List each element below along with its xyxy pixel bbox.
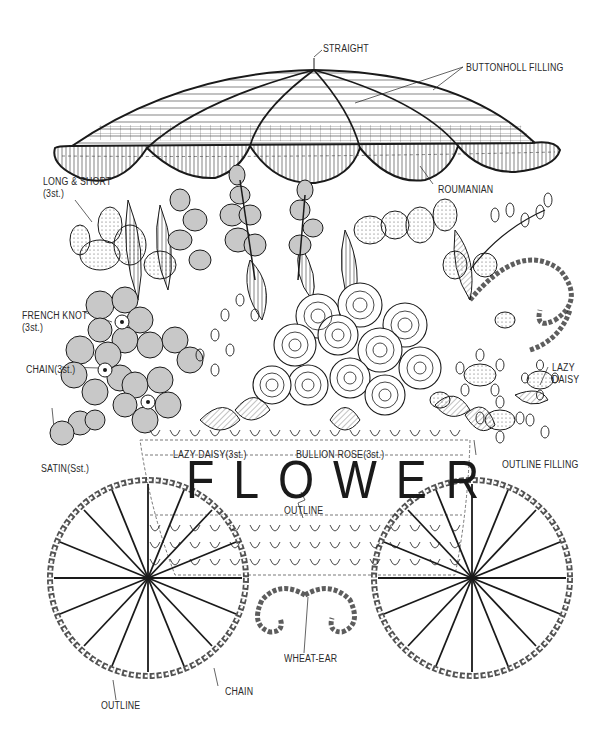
label-lazy-daisy-3st: LAZY DAISY(3st.) (173, 449, 247, 461)
flower-cart-diagram (0, 0, 614, 748)
right-wheel (374, 480, 570, 676)
label-chain-3st: CHAIN(3st.) (26, 364, 75, 376)
label-straight: STRAIGHT (323, 43, 369, 55)
label-french-knot: FRENCH KNOT (3st.) (22, 310, 87, 334)
label-outline-center: OUTLINE (284, 505, 323, 517)
label-bullion-rose: BULLION ROSE(3st.) (296, 449, 384, 461)
label-wheat-ear: WHEAT-EAR (284, 653, 337, 665)
bullion-roses (253, 283, 441, 415)
label-long-short: LONG & SHORT (3st.) (43, 176, 111, 200)
umbrella-canopy (54, 58, 560, 183)
label-outline-filling: OUTLINE FILLING (502, 459, 578, 471)
label-lazy-daisy-right: LAZY DAISY (552, 362, 579, 386)
label-chain-bottom: CHAIN (225, 686, 253, 698)
label-satin: SATIN(Sst.) (41, 463, 89, 475)
label-buttonhole-filling: BUTTONHOLL FILLING (466, 62, 564, 74)
label-roumanian: ROUMANIAN (438, 184, 493, 196)
left-wheel (50, 480, 246, 676)
label-outline-bottom: OUTLINE (101, 700, 140, 712)
flower-arrangement (50, 165, 571, 445)
